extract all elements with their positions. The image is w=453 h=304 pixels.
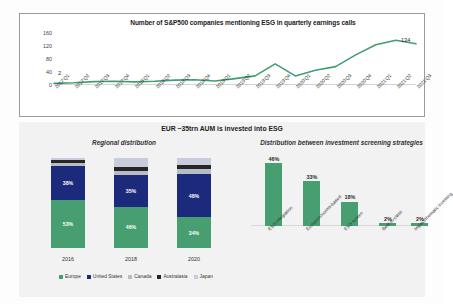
stack-segment-value: 46% [114,224,148,230]
legend-swatch [87,275,91,279]
regional-chart-subtitle: Regional distribution [49,139,199,146]
legend-swatch [59,275,63,279]
strategy-x-tick-label: Impact/thematic investing [413,191,453,231]
strategy-bar-value: 46% [254,156,294,162]
strategies-chart-subtitle: Distribution between investment screenin… [259,139,424,147]
strategy-bar-value: 33% [292,174,332,180]
regional-stacked-bar: 38%53% [51,158,85,248]
last-point-label: 134 [401,37,410,43]
line-chart-title: Number of S&P500 companies mentioning ES… [68,19,418,26]
y-tick-40: 40 [46,69,52,75]
stack-segment-value: 34% [177,230,211,236]
y-tick-0: 0 [49,82,52,88]
stack-segment-europe: 53% [51,200,85,248]
regional-stacked-bar: 35%46% [114,158,148,248]
y-tick-120: 120 [43,43,52,49]
legend-label: Canada [134,274,151,279]
stack-segment-value: 38% [51,180,85,186]
legend-item: Europe [59,274,81,279]
strategy-bar-value: 18% [330,194,370,200]
stack-segment-europe: 46% [114,207,148,248]
stack-segment-japan [114,158,148,167]
y-tick-160: 160 [43,30,52,36]
legend-item: Australasia [157,274,187,279]
stack-segment-united-states: 48% [177,174,211,217]
stack-segment-value: 35% [114,188,148,194]
legend-swatch [157,275,161,279]
regional-x-tick-label: 2018 [114,256,148,262]
y-tick-80: 80 [46,56,52,62]
regional-stacked-bar-chart: 38%53%201635%46%201848%34%2020 [29,152,244,262]
regional-stacked-bar: 48%34% [177,158,211,248]
stack-segment-europe: 34% [177,217,211,248]
first-point-label: 2 [58,70,61,76]
stack-segment-united-states: 35% [114,175,148,207]
line-chart-y-axis: 160 120 80 40 0 [26,30,52,82]
regional-x-tick-label: 2020 [177,256,211,262]
legend-swatch [128,275,132,279]
legend-item: United States [87,274,122,279]
regional-chart-legend: EuropeUnited StatesCanadaAustralasiaJapa… [31,274,241,279]
regional-x-tick-label: 2016 [51,256,85,262]
legend-item: Canada [128,274,151,279]
legend-label: Australasia [163,274,187,279]
stack-segment-japan [177,158,211,165]
legend-swatch [194,275,198,279]
line-chart-x-axis: 2017'Q12017'Q22017'Q32017'Q42018'Q12018'… [54,86,416,116]
stack-segment-united-states: 38% [51,166,85,200]
legend-label: United States [93,274,122,279]
strategies-bar-chart: 46%ESG integration33%Exclusion/norms-bas… [251,152,421,262]
stack-segment-value: 53% [51,221,85,227]
legend-label: Japan [200,274,213,279]
x-tick-label: 2021'Q3 [416,73,433,90]
aum-panel-title: EUR ~35trn AUM is invested into ESG [19,125,425,132]
line-chart-panel: Number of S&P500 companies mentioning ES… [19,13,425,117]
legend-label: Europe [65,274,81,279]
stack-segment-value: 48% [177,193,211,199]
aum-panel: EUR ~35trn AUM is invested into ESG Regi… [19,122,425,297]
legend-item: Japan [194,274,213,279]
